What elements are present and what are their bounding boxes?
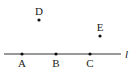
- line-label-l: l: [125, 48, 128, 60]
- point-label-C: C: [86, 57, 93, 69]
- point-label-A: A: [18, 57, 26, 69]
- point-label-D: D: [35, 5, 43, 17]
- point-A: A: [18, 52, 26, 69]
- point-E: E: [97, 21, 104, 38]
- point-C: C: [86, 52, 93, 69]
- geometry-diagram: l A B C D E: [0, 0, 139, 82]
- point-D: D: [35, 5, 43, 22]
- point-label-B: B: [52, 57, 59, 69]
- point-label-E: E: [97, 21, 104, 33]
- point-B: B: [52, 52, 59, 69]
